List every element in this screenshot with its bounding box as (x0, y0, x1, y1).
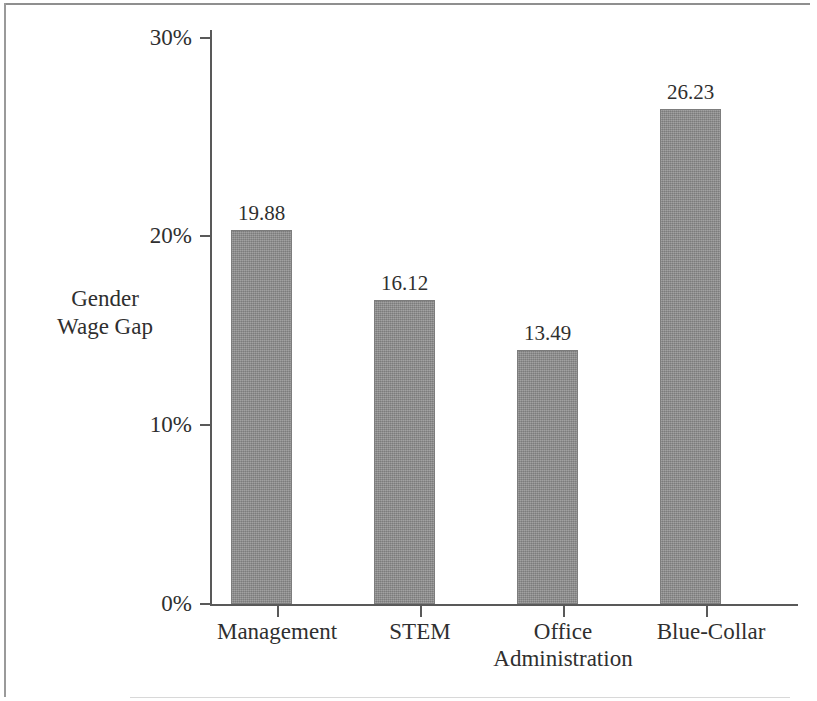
y-tick-label-20: 20% (132, 224, 192, 247)
y-tick-label-20-wrap: 20% (130, 224, 192, 247)
y-axis-title-line1: Gender (30, 285, 180, 313)
y-tick-label-0-wrap: 0% (130, 592, 192, 615)
x-label-blue-collar: Blue-Collar (616, 618, 806, 645)
bar-value-management: 19.88 (211, 203, 312, 224)
y-tick-0 (200, 603, 211, 605)
x-tick-office-administration (563, 606, 565, 617)
y-tick-label-30-wrap: 30% (130, 26, 192, 49)
x-tick-management (277, 606, 279, 617)
bar-chart-plot: Gender Wage Gap 0% 10% 20% 30% (0, 0, 817, 701)
x-tick-blue-collar (706, 606, 708, 617)
y-tick-label-10: 10% (132, 413, 192, 436)
y-axis-line (210, 30, 212, 606)
x-axis-line (210, 604, 798, 606)
bar-stem (374, 300, 435, 604)
chart-page: Gender Wage Gap 0% 10% 20% 30% (0, 0, 817, 701)
y-tick-label-30: 30% (132, 26, 192, 49)
y-tick-label-10-wrap: 10% (130, 413, 192, 436)
x-tick-stem (420, 606, 422, 617)
y-tick-label-0: 0% (132, 592, 192, 615)
y-tick-20 (200, 235, 211, 237)
y-axis-title-line2: Wage Gap (30, 313, 180, 341)
x-label-blue-collar-line1: Blue-Collar (616, 618, 806, 645)
y-tick-10 (200, 424, 211, 426)
bar-value-office-administration: 13.49 (497, 323, 598, 344)
bar-value-stem: 16.12 (354, 273, 455, 294)
bar-office-administration (517, 350, 578, 604)
bar-management (231, 230, 292, 604)
x-label-office-administration-line2: Administration (473, 645, 653, 672)
bar-value-blue-collar: 26.23 (640, 82, 741, 103)
bar-blue-collar (660, 109, 721, 604)
y-tick-30 (200, 37, 211, 39)
y-axis-title: Gender Wage Gap (30, 285, 180, 341)
